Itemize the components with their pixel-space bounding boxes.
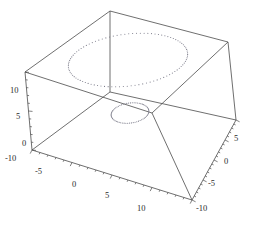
inner-ring-point [127, 123, 128, 124]
inner-ring-point [148, 109, 149, 110]
x-axis-tick [103, 173, 104, 175]
outer-ring-point [183, 44, 184, 45]
inner-ring-point [148, 112, 149, 113]
inner-ring-point [146, 106, 147, 107]
inner-ring-point [148, 110, 149, 111]
x-axis-tick [95, 170, 96, 172]
outer-ring-point [179, 41, 180, 42]
inner-ring-point [129, 123, 130, 124]
outer-ring-point [68, 67, 69, 68]
outer-ring-point [179, 68, 180, 69]
outer-ring-point [186, 57, 187, 58]
outer-ring-point [131, 85, 132, 86]
outer-ring-point [73, 55, 74, 56]
inner-ring-point [125, 123, 126, 124]
outer-ring-point [94, 84, 95, 85]
x-axis-tick [159, 190, 160, 192]
inner-ring-point [118, 106, 119, 107]
outer-ring-point [119, 86, 120, 87]
outer-ring-point [115, 86, 116, 87]
x-axis-tick [30, 150, 32, 154]
inner-ring-point [123, 104, 124, 105]
outer-ring-point [76, 51, 77, 52]
inner-ring-point [148, 111, 149, 112]
inner-ring-point [115, 107, 116, 108]
outer-ring-point [161, 35, 162, 36]
outer-ring-point [142, 83, 143, 84]
outer-ring-point [187, 56, 188, 57]
inner-ring-point [147, 115, 148, 116]
outer-ring-point [69, 60, 70, 61]
outer-ring-point [175, 39, 176, 40]
y-axis-tick [194, 196, 196, 197]
x-axis-tick [79, 165, 80, 167]
inner-ring-point [113, 109, 114, 110]
inner-ring-point [145, 117, 146, 118]
outer-ring-point [68, 68, 69, 69]
y-axis-tick [199, 188, 201, 189]
x-axis-tick [39, 153, 40, 155]
outer-ring-point [81, 48, 82, 49]
x-axis-tick [190, 200, 192, 204]
plot-root: 1050-10-5051050-5-10 [0, 0, 265, 225]
inner-ring-point [116, 121, 117, 122]
outer-ring-point [123, 86, 124, 87]
outer-ring-point [140, 33, 141, 34]
y-tick-label: 5 [234, 133, 238, 143]
inner-ring-point [111, 113, 112, 114]
inner-ring-point [112, 111, 113, 112]
x-tick-label: 10 [137, 203, 146, 213]
inner-ring-point [142, 104, 143, 105]
inner-ring-point [116, 106, 117, 107]
box-edge-top-back-right [110, 11, 228, 42]
outer-ring-point [74, 53, 75, 54]
outer-ring-point [150, 82, 151, 83]
inner-ring-point [148, 113, 149, 114]
outer-ring-point [85, 82, 86, 83]
x-tick-label: 5 [105, 190, 109, 200]
inner-ring-point [132, 102, 133, 103]
box-edge-top-front-left [25, 72, 152, 113]
outer-ring-point [146, 82, 147, 83]
inner-ring-point [142, 118, 143, 119]
z-tick-label: 0 [22, 138, 26, 148]
outer-ring-point [113, 36, 114, 37]
outer-ring-point [147, 33, 148, 34]
inner-ring-point [136, 121, 137, 122]
outer-ring-point [169, 74, 170, 75]
x-axis-tick [55, 158, 56, 160]
x-axis-tick [150, 188, 152, 192]
y-axis-tick [214, 160, 218, 162]
outer-ring-point [163, 77, 164, 78]
y-tick-label: 0 [224, 156, 228, 166]
outer-ring-point [177, 40, 178, 41]
x-axis-tick [110, 175, 112, 179]
y-axis-tick [196, 192, 198, 193]
y-axis-tick [225, 140, 229, 142]
inner-ring-point [126, 103, 127, 104]
outer-ring-point [105, 37, 106, 38]
inner-ring-point [120, 122, 121, 123]
outer-ring-point [151, 33, 152, 34]
inner-ring-point [139, 103, 140, 104]
inner-ring-point [122, 122, 123, 123]
x-axis-tick [167, 193, 168, 195]
outer-ring-point [117, 35, 118, 36]
outer-ring-point [124, 34, 125, 35]
outer-ring-point [82, 81, 83, 82]
outer-ring-point [78, 50, 79, 51]
outer-ring-point [92, 42, 93, 43]
y-axis-tick [192, 200, 196, 202]
outer-ring-point [177, 69, 178, 70]
z-tick-label: 10 [10, 85, 19, 95]
x-tick-label: -10 [5, 153, 16, 163]
outer-ring-point [167, 36, 168, 37]
outer-ring-point [173, 38, 174, 39]
outer-ring-point [153, 80, 154, 81]
x-axis-tick [143, 185, 144, 187]
box-edge-bottom-back-left [32, 92, 110, 150]
y-axis-tick [227, 136, 229, 137]
inner-ring-point [117, 121, 118, 122]
x-axis-tick [135, 183, 136, 185]
inner-ring-point [135, 102, 136, 103]
